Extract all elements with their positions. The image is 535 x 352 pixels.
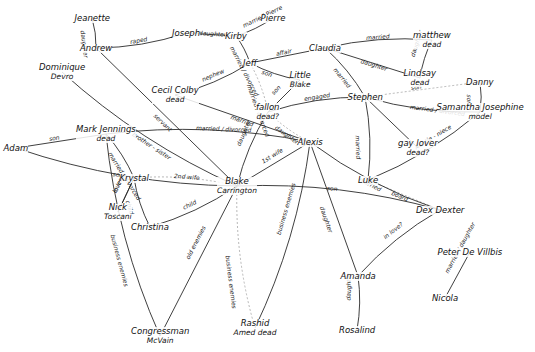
person-name: Mark Jennings [76,124,136,134]
person-note: Devro [39,72,85,81]
person-name: Claudia [309,43,341,53]
person-note: Blake [290,80,311,89]
person-node-fallon: fallondead? [256,103,280,121]
edge-label: son [327,184,338,192]
person-note: dead [76,134,136,143]
person-name: Samantha Josephine [437,102,524,112]
person-note: Toscani [104,212,132,221]
person-node-alexis: Alexis [298,138,323,147]
person-note: model [437,112,524,121]
person-name: matthew [413,30,451,40]
person-node-blake: BlakeCarrington [217,177,257,195]
person-node-rashid: RashidAmed dead [234,319,277,337]
person-node-nick: NickToscani [104,203,132,221]
person-node-adam: Adam [4,144,29,153]
person-note: dead [404,78,437,87]
relationship-edge [325,48,365,97]
person-name: Cecil Colby [152,85,199,95]
person-name: Little [290,70,311,80]
person-note: Carrington [217,186,257,195]
person-name: Nick [109,202,127,212]
person-name: Adam [4,143,29,153]
person-name: Congressman [131,326,189,336]
person-note: dead? [256,112,280,121]
person-name: Peter De Villbis [438,247,503,257]
person-name: Andrew [80,43,112,53]
person-node-mark: Mark Jenningsdead [76,125,136,143]
relationship-edge [357,276,360,330]
person-node-joseph: Joseph [172,29,200,38]
person-name: Danny [466,77,494,87]
relationship-edge [237,185,440,210]
person-note: dead? [398,148,438,157]
person-name: Dex Dexter [416,205,464,215]
person-node-krystal: Krystal [120,174,149,183]
person-note: dead [152,95,199,104]
relationship-edge [134,178,150,227]
person-name: Pierre [261,13,286,23]
person-name: Dominique [39,62,85,72]
person-node-amanda: Amanda [341,272,376,281]
person-name: Luke [358,175,378,185]
person-node-nicola: Nicola [432,294,458,303]
person-name: Joseph [172,28,200,38]
person-node-gay-lover: gay loverdead? [398,139,438,157]
person-name: Stephen [348,92,383,102]
person-name: Kirby [225,31,247,41]
person-node-peter: Peter De Villbis [438,248,503,257]
person-node-christina: Christina [131,223,169,232]
person-node-stephen: Stephen [348,93,383,102]
person-node-rosalind: Rosalind [339,326,375,335]
person-node-cecil: Cecil Colbydead [152,86,199,104]
person-name: Nicola [432,293,458,303]
person-node-congressman: CongressmanMcVain [131,327,189,345]
relationship-edge [365,97,370,180]
person-node-samantha: Samantha Josephinemodel [437,103,524,121]
person-node-matthew: matthewdead [413,31,451,49]
person-name: Amanda [341,271,376,281]
relationship-edge [310,142,358,276]
edge-label: daughter [199,29,227,38]
relationship-edge [237,186,255,328]
person-node-jeff: Jeff [243,59,257,68]
person-name: Krystal [120,173,149,183]
person-note: McVain [131,336,189,345]
person-name: Jeff [243,58,257,68]
edge-label: married [354,136,362,160]
person-name: Rashid [241,318,270,328]
person-name: Alexis [298,137,323,147]
person-name: Lindsay [404,68,437,78]
edge-label: married [366,32,390,41]
person-node-jeanette: Jeanette [75,14,110,23]
relationship-diagram: daughterdaughtermarried Pierremarried / … [0,0,535,352]
person-node-kirby: Kirby [225,32,247,41]
person-node-little-blake: LittleBlake [290,71,311,89]
person-name: Christina [131,222,169,232]
person-node-pierre: Pierre [261,14,286,23]
person-node-dominique: DominiqueDevro [39,63,85,81]
person-node-luke: Luke [358,176,378,185]
person-note: Amed dead [234,328,277,337]
person-note: dead [413,40,451,49]
person-name: Blake [225,176,249,186]
person-node-lindsay: Lindsaydead [404,69,437,87]
person-name: Jeanette [75,13,110,23]
person-node-danny: Danny [466,78,494,87]
person-node-andrew: Andrew [80,44,112,53]
person-name: gay lover [398,138,438,148]
person-name: Rosalind [339,325,375,335]
person-name: fallon [256,102,280,112]
person-node-claudia: Claudia [309,44,341,53]
person-node-dex: Dex Dexter [416,206,464,215]
